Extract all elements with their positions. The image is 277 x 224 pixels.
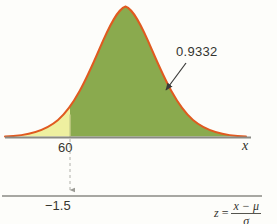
z-formula-fraction: x − μ σ [231, 200, 260, 224]
shaded-probability-area [5, 7, 246, 137]
z-formula-denominator: σ [243, 214, 249, 224]
z-axis-tick-label: −1.5 [45, 198, 71, 213]
x-axis-tick-label: 60 [58, 140, 72, 155]
distribution-plot [0, 0, 277, 224]
normal-distribution-figure: 0.9332 60 x −1.5 z = x − μ σ [0, 0, 277, 224]
probability-annotation-label: 0.9332 [176, 44, 218, 59]
z-score-formula: z = x − μ σ [214, 200, 261, 224]
z-formula-numerator: x − μ [231, 200, 260, 214]
z-formula-equals: = [222, 206, 229, 221]
z-formula-variable: z [214, 206, 219, 221]
x-axis-label: x [242, 138, 248, 154]
probability-leader-arrow [166, 63, 186, 90]
